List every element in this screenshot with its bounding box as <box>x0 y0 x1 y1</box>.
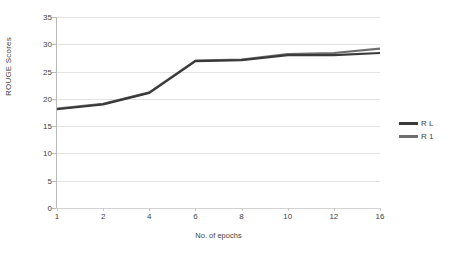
x-axis-tick-label: 12 <box>321 212 347 221</box>
x-axis-tick-label: 10 <box>275 212 301 221</box>
y-axis-tick-label: 25 <box>22 67 52 76</box>
x-axis-tick-label: 2 <box>90 212 116 221</box>
legend-item-r-l[interactable]: R L <box>399 117 454 130</box>
y-axis-tick-label: 5 <box>22 176 52 185</box>
legend-label-r-l: R L <box>421 119 433 128</box>
legend-label-r-1: R 1 <box>421 132 433 141</box>
x-axis-tick-mark <box>334 208 335 211</box>
x-axis-tick-mark <box>195 208 196 211</box>
x-axis-tick-mark <box>288 208 289 211</box>
rouge-scores-line-chart: ROUGE Scores 05101520253035 12468101216 … <box>0 0 454 255</box>
x-axis-title: No. of epochs <box>57 231 380 240</box>
legend-item-r-1[interactable]: R 1 <box>399 130 454 143</box>
x-axis-tick-label: 8 <box>229 212 255 221</box>
series-line <box>57 53 380 109</box>
y-axis-tick-label: 15 <box>22 122 52 131</box>
x-axis-line <box>56 208 380 209</box>
y-axis-tick-label: 35 <box>22 13 52 22</box>
plot-area <box>57 17 380 208</box>
x-axis-tick-label: 16 <box>367 212 393 221</box>
legend-swatch-r-l <box>399 122 418 125</box>
x-axis-tick-mark <box>380 208 381 211</box>
x-axis-tick-mark <box>242 208 243 211</box>
chart-legend: R L R 1 <box>399 117 454 143</box>
series-line-group <box>57 17 380 208</box>
y-axis-tick-label: 20 <box>22 94 52 103</box>
legend-swatch-r-1 <box>399 135 418 138</box>
x-axis-tick-mark <box>57 208 58 211</box>
x-axis-tick-label: 6 <box>182 212 208 221</box>
x-axis-tick-label: 4 <box>136 212 162 221</box>
x-axis-tick-mark <box>103 208 104 211</box>
y-axis-tick-label: 30 <box>22 40 52 49</box>
x-axis-tick-mark <box>149 208 150 211</box>
series-line <box>57 49 380 109</box>
x-axis-tick-label: 1 <box>44 212 70 221</box>
y-axis-tick-label: 10 <box>22 149 52 158</box>
